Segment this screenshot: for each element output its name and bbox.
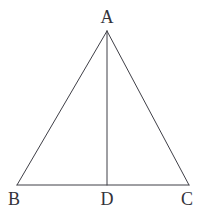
vertex-label-b: B <box>8 190 20 208</box>
segment-ac <box>107 31 189 185</box>
geometry-figure: A B D C <box>0 0 205 215</box>
vertex-label-d: D <box>101 190 114 208</box>
vertex-label-c: C <box>181 190 193 208</box>
triangle-diagram-svg <box>0 0 205 215</box>
segment-ab <box>17 31 107 185</box>
vertex-label-a: A <box>101 8 114 26</box>
